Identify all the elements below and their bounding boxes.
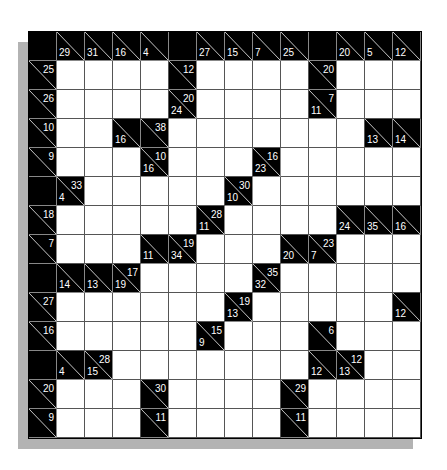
entry-cell[interactable] — [253, 119, 281, 148]
entry-cell[interactable] — [365, 235, 393, 264]
entry-cell[interactable] — [225, 409, 253, 438]
entry-cell[interactable] — [57, 206, 85, 235]
entry-cell[interactable] — [281, 206, 309, 235]
entry-cell[interactable] — [253, 351, 281, 380]
entry-cell[interactable] — [309, 409, 337, 438]
entry-cell[interactable] — [393, 177, 421, 206]
entry-cell[interactable] — [197, 293, 225, 322]
entry-cell[interactable] — [337, 235, 365, 264]
entry-cell[interactable] — [141, 264, 169, 293]
entry-cell[interactable] — [365, 409, 393, 438]
entry-cell[interactable] — [113, 235, 141, 264]
entry-cell[interactable] — [393, 380, 421, 409]
entry-cell[interactable] — [253, 90, 281, 119]
entry-cell[interactable] — [253, 409, 281, 438]
entry-cell[interactable] — [253, 206, 281, 235]
entry-cell[interactable] — [393, 61, 421, 90]
entry-cell[interactable] — [197, 264, 225, 293]
entry-cell[interactable] — [253, 235, 281, 264]
entry-cell[interactable] — [337, 264, 365, 293]
entry-cell[interactable] — [309, 264, 337, 293]
entry-cell[interactable] — [85, 90, 113, 119]
entry-cell[interactable] — [169, 293, 197, 322]
entry-cell[interactable] — [113, 409, 141, 438]
entry-cell[interactable] — [169, 322, 197, 351]
entry-cell[interactable] — [365, 322, 393, 351]
entry-cell[interactable] — [85, 61, 113, 90]
entry-cell[interactable] — [337, 293, 365, 322]
entry-cell[interactable] — [393, 409, 421, 438]
entry-cell[interactable] — [141, 177, 169, 206]
entry-cell[interactable] — [197, 409, 225, 438]
entry-cell[interactable] — [57, 322, 85, 351]
entry-cell[interactable] — [393, 351, 421, 380]
entry-cell[interactable] — [225, 148, 253, 177]
entry-cell[interactable] — [337, 409, 365, 438]
entry-cell[interactable] — [169, 409, 197, 438]
entry-cell[interactable] — [113, 322, 141, 351]
entry-cell[interactable] — [337, 322, 365, 351]
entry-cell[interactable] — [113, 61, 141, 90]
entry-cell[interactable] — [113, 351, 141, 380]
entry-cell[interactable] — [85, 206, 113, 235]
entry-cell[interactable] — [197, 90, 225, 119]
entry-cell[interactable] — [57, 61, 85, 90]
entry-cell[interactable] — [169, 206, 197, 235]
entry-cell[interactable] — [141, 293, 169, 322]
entry-cell[interactable] — [57, 148, 85, 177]
entry-cell[interactable] — [281, 351, 309, 380]
entry-cell[interactable] — [337, 119, 365, 148]
entry-cell[interactable] — [253, 293, 281, 322]
entry-cell[interactable] — [169, 351, 197, 380]
entry-cell[interactable] — [57, 409, 85, 438]
entry-cell[interactable] — [141, 61, 169, 90]
entry-cell[interactable] — [337, 177, 365, 206]
entry-cell[interactable] — [281, 264, 309, 293]
entry-cell[interactable] — [197, 380, 225, 409]
entry-cell[interactable] — [365, 380, 393, 409]
entry-cell[interactable] — [393, 148, 421, 177]
entry-cell[interactable] — [85, 235, 113, 264]
entry-cell[interactable] — [57, 380, 85, 409]
entry-cell[interactable] — [57, 235, 85, 264]
entry-cell[interactable] — [57, 119, 85, 148]
entry-cell[interactable] — [281, 293, 309, 322]
entry-cell[interactable] — [113, 90, 141, 119]
entry-cell[interactable] — [337, 380, 365, 409]
entry-cell[interactable] — [141, 90, 169, 119]
entry-cell[interactable] — [365, 148, 393, 177]
entry-cell[interactable] — [85, 293, 113, 322]
entry-cell[interactable] — [141, 351, 169, 380]
entry-cell[interactable] — [85, 148, 113, 177]
entry-cell[interactable] — [197, 351, 225, 380]
entry-cell[interactable] — [85, 177, 113, 206]
entry-cell[interactable] — [281, 119, 309, 148]
entry-cell[interactable] — [309, 177, 337, 206]
entry-cell[interactable] — [253, 177, 281, 206]
entry-cell[interactable] — [225, 61, 253, 90]
entry-cell[interactable] — [365, 351, 393, 380]
entry-cell[interactable] — [365, 264, 393, 293]
entry-cell[interactable] — [365, 293, 393, 322]
entry-cell[interactable] — [281, 61, 309, 90]
entry-cell[interactable] — [113, 177, 141, 206]
entry-cell[interactable] — [113, 380, 141, 409]
entry-cell[interactable] — [281, 322, 309, 351]
entry-cell[interactable] — [197, 235, 225, 264]
entry-cell[interactable] — [113, 293, 141, 322]
entry-cell[interactable] — [141, 322, 169, 351]
entry-cell[interactable] — [393, 235, 421, 264]
entry-cell[interactable] — [197, 61, 225, 90]
entry-cell[interactable] — [225, 119, 253, 148]
entry-cell[interactable] — [225, 235, 253, 264]
entry-cell[interactable] — [309, 148, 337, 177]
entry-cell[interactable] — [113, 206, 141, 235]
entry-cell[interactable] — [337, 90, 365, 119]
entry-cell[interactable] — [365, 61, 393, 90]
entry-cell[interactable] — [113, 148, 141, 177]
entry-cell[interactable] — [57, 293, 85, 322]
entry-cell[interactable] — [197, 148, 225, 177]
entry-cell[interactable] — [169, 264, 197, 293]
entry-cell[interactable] — [197, 119, 225, 148]
entry-cell[interactable] — [281, 148, 309, 177]
